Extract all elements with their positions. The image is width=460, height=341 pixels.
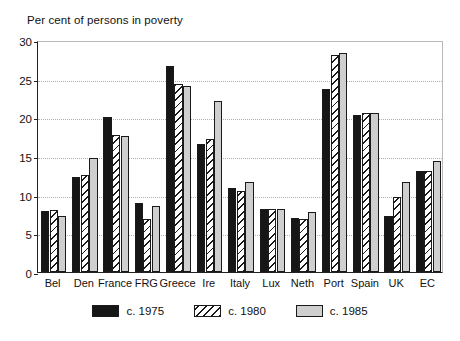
bar-bel-1985 [58, 216, 66, 272]
x-label-bel: Bel [45, 277, 61, 289]
bar-frg-1980 [143, 219, 151, 272]
x-label-spain: Spain [351, 277, 379, 289]
bar-spain-1975 [353, 115, 361, 272]
x-label-ire: Ire [202, 277, 215, 289]
bar-italy-1975 [228, 188, 236, 272]
legend-label-1985: c. 1985 [330, 305, 368, 317]
bar-greece-1975 [166, 66, 174, 272]
bar-group-uk [384, 42, 409, 272]
bar-ec-1980 [424, 171, 432, 272]
y-tick-label: 0 [26, 268, 32, 280]
bar-port-1975 [322, 89, 330, 272]
bar-group-frg [135, 42, 160, 272]
bar-den-1985 [89, 158, 97, 272]
bar-greece-1985 [183, 86, 191, 272]
y-tick-label: 25 [19, 75, 32, 87]
legend-item-1980: c. 1980 [194, 305, 266, 317]
bar-group-spain [353, 42, 378, 272]
bar-group-lux [260, 42, 285, 272]
bar-italy-1985 [245, 182, 253, 272]
bar-ire-1985 [214, 101, 222, 272]
bar-frg-1985 [152, 206, 160, 272]
bar-greece-1980 [174, 84, 182, 272]
x-label-italy: Italy [230, 277, 250, 289]
bar-port-1980 [331, 55, 339, 272]
x-label-ec: EC [420, 277, 435, 289]
y-tick-label: 30 [19, 36, 32, 48]
bar-spain-1985 [370, 113, 378, 272]
bar-group-italy [228, 42, 253, 272]
bar-group-ire [197, 42, 222, 272]
bar-france-1985 [121, 136, 129, 272]
legend-item-1985: c. 1985 [296, 305, 368, 317]
bar-italy-1980 [237, 191, 245, 272]
bar-spain-1980 [362, 113, 370, 272]
x-label-neth: Neth [291, 277, 314, 289]
y-tick-label: 10 [19, 191, 32, 203]
bar-port-1985 [339, 53, 347, 272]
bar-den-1980 [81, 175, 89, 272]
x-label-uk: UK [389, 277, 404, 289]
bar-neth-1985 [308, 212, 316, 272]
bar-ec-1975 [416, 171, 424, 272]
bar-group-neth [291, 42, 316, 272]
x-label-france: France [98, 277, 132, 289]
y-tick-mark [34, 274, 38, 275]
x-label-greece: Greece [159, 277, 195, 289]
bar-ire-1980 [206, 139, 214, 272]
bar-neth-1975 [291, 218, 299, 272]
bar-france-1980 [112, 135, 120, 272]
chart-legend: c. 1975c. 1980c. 1985 [0, 305, 460, 317]
bar-uk-1985 [402, 182, 410, 272]
legend-swatch-1975 [92, 305, 119, 317]
bar-group-greece [166, 42, 191, 272]
chart-title: Per cent of persons in poverty [27, 14, 183, 26]
legend-item-1975: c. 1975 [92, 305, 164, 317]
bar-group-port [322, 42, 347, 272]
bar-den-1975 [72, 177, 80, 272]
x-label-frg: FRG [135, 277, 158, 289]
plot-area: 051015202530 [37, 41, 443, 273]
chart-figure: Per cent of persons in poverty 051015202… [0, 0, 460, 341]
legend-swatch-1985 [296, 305, 323, 317]
bar-lux-1975 [260, 209, 268, 272]
bar-lux-1980 [268, 209, 276, 272]
bar-neth-1980 [299, 219, 307, 272]
legend-label-1975: c. 1975 [126, 305, 164, 317]
bar-bel-1980 [50, 210, 58, 272]
legend-swatch-1980 [194, 305, 221, 317]
bar-group-france [103, 42, 128, 272]
legend-label-1980: c. 1980 [228, 305, 266, 317]
x-label-port: Port [324, 277, 344, 289]
x-label-lux: Lux [262, 277, 280, 289]
bar-uk-1980 [393, 197, 401, 272]
bar-lux-1985 [277, 209, 285, 272]
bar-uk-1975 [384, 216, 392, 272]
bar-france-1975 [103, 117, 111, 272]
bar-frg-1975 [135, 203, 143, 272]
y-tick-label: 15 [19, 152, 32, 164]
bar-group-bel [41, 42, 66, 272]
bar-group-den [72, 42, 97, 272]
bar-ire-1975 [197, 144, 205, 272]
x-label-den: Den [74, 277, 94, 289]
bar-group-ec [416, 42, 441, 272]
y-tick-label: 20 [19, 113, 32, 125]
bar-ec-1985 [433, 161, 441, 272]
bar-series-container [38, 42, 442, 272]
y-tick-label: 5 [26, 229, 32, 241]
bar-bel-1975 [41, 211, 49, 272]
